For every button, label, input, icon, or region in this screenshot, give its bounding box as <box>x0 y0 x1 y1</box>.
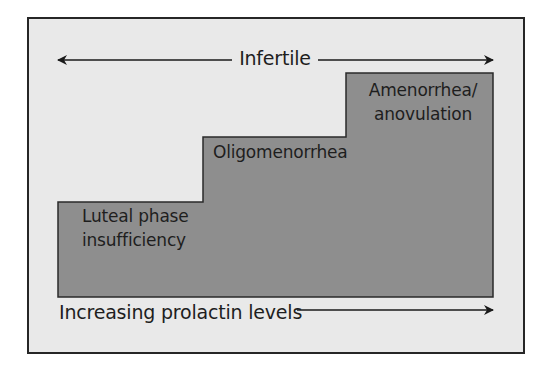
step3-line2: anovulation <box>356 102 490 126</box>
step-label-luteal-phase-insufficiency: Luteal phase insufficiency <box>82 204 189 252</box>
prolactin-levels-label: Increasing prolactin levels <box>59 300 302 324</box>
infertile-label: Infertile <box>232 46 318 70</box>
step1-line1: Luteal phase <box>82 204 189 228</box>
step-label-amenorrhea-anovulation: Amenorrhea/ anovulation <box>356 78 490 126</box>
step3-line1: Amenorrhea/ <box>356 78 490 102</box>
step-label-oligomenorrhea: Oligomenorrhea <box>213 140 347 164</box>
step1-line2: insufficiency <box>82 228 189 252</box>
step2-line1: Oligomenorrhea <box>213 140 347 164</box>
